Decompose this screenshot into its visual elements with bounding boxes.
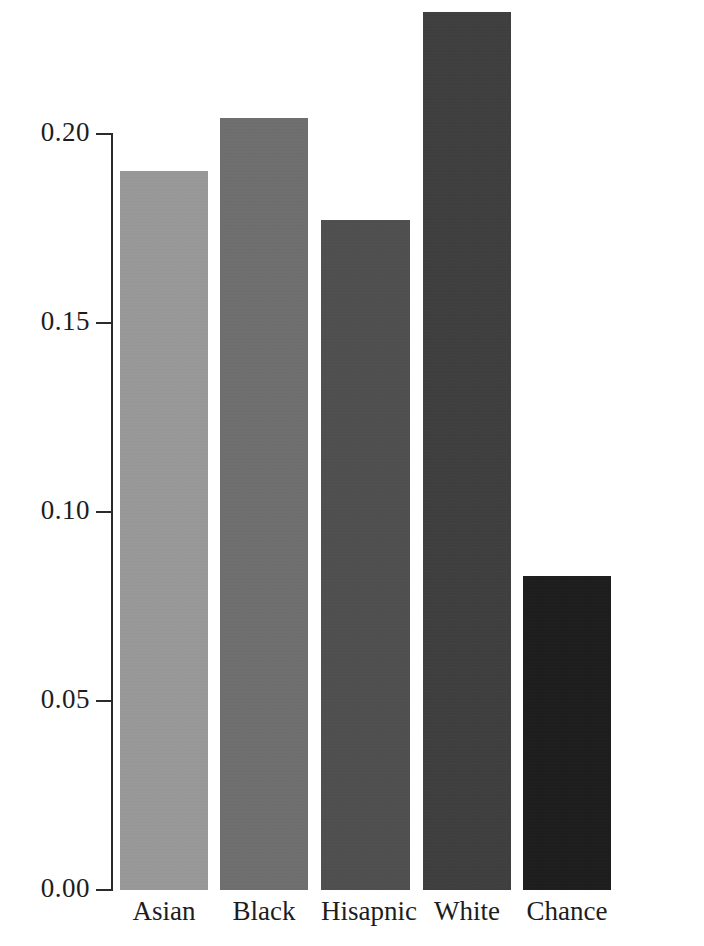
bar-asian[interactable] [120,171,208,890]
x-tick-label-chance: Chance [523,898,611,925]
x-tick-label-white: White [423,898,511,925]
bar-rect-white [423,12,511,890]
bar-rect-chance [523,576,611,890]
bars-layer [0,0,704,946]
bar-texture-hisapnic [321,220,410,890]
bar-texture-black [220,118,308,890]
bar-black[interactable] [220,118,308,890]
bar-hisapnic[interactable] [321,220,410,890]
x-tick-label-black: Black [220,898,308,925]
x-tick-label-hisapnic: Hisapnic [321,898,410,925]
x-tick-label-asian: Asian [120,898,208,925]
bar-texture-chance [523,576,611,890]
bar-chance[interactable] [523,576,611,890]
bar-rect-black [220,118,308,890]
bar-chart: 0.20 0.15 0.10 0.05 0.00 [0,0,704,946]
bar-texture-white [423,12,511,890]
bar-texture-asian [120,171,208,890]
bar-rect-asian [120,171,208,890]
bar-rect-hisapnic [321,220,410,890]
bar-white[interactable] [423,12,511,890]
